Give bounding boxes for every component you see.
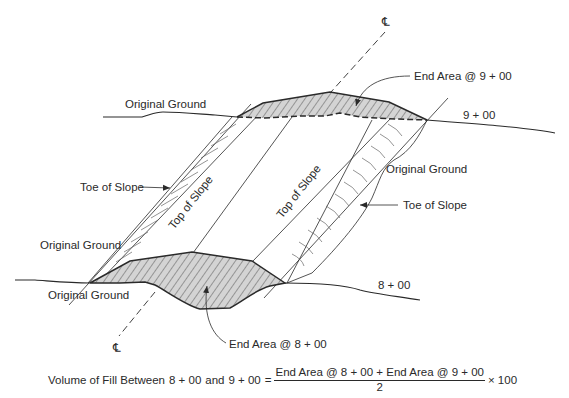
label-end-area-9-00: End Area @ 9 + 00 [414, 70, 512, 82]
right-slope-hatch [292, 124, 402, 266]
end-area-fill-diagram: ℄ ℄ [0, 0, 569, 398]
formula-and: and [205, 374, 224, 386]
label-toe-of-slope-left: Toe of Slope [80, 181, 144, 193]
label-station-8-00: 8 + 00 [378, 279, 410, 291]
formula-multiplier: × 100 [488, 374, 517, 386]
formula-fraction: End Area @ 8 + 00 + End Area @ 9 + 00 2 [274, 366, 484, 394]
left-slope-hatch [116, 124, 236, 262]
label-original-ground-bottom-left: Original Ground [48, 289, 129, 301]
centerline-symbol-bottom: ℄ [112, 341, 121, 355]
label-original-ground-top-left: Original Ground [125, 98, 206, 110]
arrow-toe-of-slope-left [140, 187, 170, 188]
formula-station-b: 9 + 00 [228, 374, 260, 386]
label-original-ground-mid-left: Original Ground [40, 239, 121, 251]
label-original-ground-right: Original Ground [386, 163, 467, 175]
formula-equals: = [265, 374, 272, 386]
formula-station-a: 8 + 00 [169, 374, 201, 386]
formula-denominator: 2 [377, 381, 383, 394]
formula-lhs: Volume of Fill Between [48, 374, 165, 386]
volume-formula: Volume of Fill Between 8 + 00 and 9 + 00… [48, 366, 517, 394]
label-toe-of-slope-right: Toe of Slope [403, 199, 467, 211]
centerline-symbol-top: ℄ [381, 15, 390, 29]
label-station-9-00: 9 + 00 [463, 109, 495, 121]
label-top-of-slope-left: Top of Slope [166, 173, 215, 231]
end-area-9-00 [237, 92, 427, 120]
label-end-area-8-00: End Area @ 8 + 00 [229, 338, 327, 350]
label-top-of-slope-right: Top of Slope [274, 162, 323, 220]
formula-numerator: End Area @ 8 + 00 + End Area @ 9 + 00 [274, 366, 484, 381]
